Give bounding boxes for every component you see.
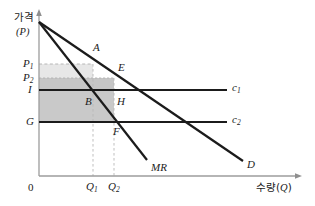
x-tick-label-q2: Q2: [108, 181, 120, 193]
x-tick-q2-subscript: 2: [116, 185, 120, 194]
point-label-e: E: [118, 62, 125, 73]
x-axis-title-ko: 수량(: [256, 181, 280, 193]
point-label-h: H: [117, 96, 125, 107]
shaded-region-i-g: [39, 90, 114, 122]
y-tick-p2-letter: P: [23, 71, 30, 83]
x-tick-q2-letter: Q: [108, 180, 116, 192]
y-tick-label-g: G: [26, 116, 34, 127]
origin-label: 0: [28, 182, 34, 193]
shaded-region-p1-p2: [39, 64, 93, 78]
y-tick-label-p1: P1: [23, 58, 33, 70]
x-tick-q1-subscript: 1: [94, 185, 98, 194]
y-axis-arrowhead: [36, 9, 42, 16]
x-axis-title-close: ): [288, 181, 292, 193]
curve-label-mr: MR: [151, 162, 167, 173]
point-label-b: B: [85, 96, 92, 107]
economics-diagram: 가격 (P) P1 P2 I G 0 Q1 Q2 수량(Q) A E B H F…: [0, 0, 315, 206]
x-axis-title-q: Q: [280, 182, 288, 193]
curve-label-c1: c1: [232, 82, 241, 94]
curve-c1-subscript: 1: [237, 86, 241, 95]
y-axis-title-p: (P): [16, 27, 29, 38]
y-tick-p1-letter: P: [23, 57, 30, 69]
curve-label-c2: c2: [232, 114, 241, 126]
point-label-a: A: [93, 42, 100, 53]
diagram-canvas: [0, 0, 315, 206]
y-axis-title-ko: 가격: [14, 12, 34, 23]
x-tick-q1-letter: Q: [86, 180, 94, 192]
x-axis-title: 수량(Q): [256, 182, 292, 194]
y-tick-label-i: I: [28, 84, 32, 95]
x-axis-arrowhead: [295, 173, 302, 179]
x-tick-label-q1: Q1: [86, 181, 98, 193]
shaded-region-p2-i: [39, 78, 114, 90]
y-tick-p1-subscript: 1: [30, 62, 34, 71]
point-label-f: F: [113, 126, 120, 137]
curve-c2-subscript: 2: [237, 118, 241, 127]
curve-label-d: D: [247, 159, 255, 170]
